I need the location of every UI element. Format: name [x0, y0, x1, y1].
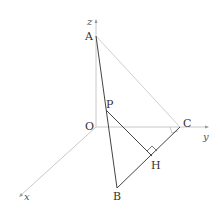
point-label-O: O: [85, 120, 94, 133]
geometry-diagram: z y x A O P C H B: [0, 0, 222, 214]
point-label-P: P: [106, 98, 114, 111]
point-label-C: C: [183, 117, 191, 130]
point-label-H: H: [151, 159, 161, 172]
y-axis-arrow-icon: [205, 126, 209, 129]
segment-AB: [96, 36, 117, 188]
segment-BC: [117, 127, 180, 188]
point-label-A: A: [84, 30, 94, 43]
segment-AC: [96, 36, 180, 127]
point-label-B: B: [113, 190, 121, 203]
segment-PH: [106, 110, 152, 156]
z-axis-label: z: [86, 16, 93, 27]
x-axis-label: x: [24, 191, 30, 202]
x-axis: [20, 127, 96, 196]
z-axis-arrow-icon: [95, 19, 98, 23]
y-axis-label: y: [202, 131, 209, 142]
